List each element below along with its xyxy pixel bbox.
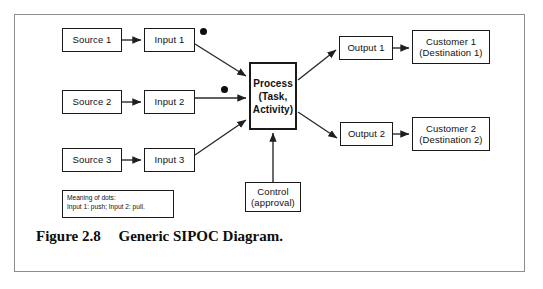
node-control-line-1: Control: [257, 186, 288, 198]
node-input-2-label: Input 2: [155, 96, 185, 108]
arrow-process-to-output2: [298, 112, 337, 138]
node-output-2-label: Output 2: [348, 128, 385, 140]
node-process-line-3: Activity): [253, 103, 293, 116]
legend-line-2: Input 1: push; Input 2: pull.: [67, 203, 173, 212]
node-source-2-label: Source 2: [73, 96, 112, 108]
node-source-3-label: Source 3: [73, 154, 112, 166]
node-input-1-label: Input 1: [155, 34, 185, 46]
node-source-3[interactable]: Source 3: [62, 148, 122, 172]
node-customer-2[interactable]: Customer 2 (Destination 2): [412, 117, 490, 151]
node-input-1[interactable]: Input 1: [144, 28, 195, 52]
node-customer-1-line-1: Customer 1: [426, 36, 476, 48]
node-customer-2-line-2: (Destination 2): [419, 134, 482, 146]
pull-dot-icon: [221, 86, 228, 93]
node-output-1-label: Output 1: [347, 42, 384, 54]
figure-caption-number: Figure 2.8: [36, 228, 101, 244]
node-input-2[interactable]: Input 2: [144, 90, 195, 114]
node-customer-1[interactable]: Customer 1 (Destination 1): [412, 30, 490, 64]
arrow-input1-to-process: [195, 44, 246, 76]
legend-line-1: Meaning of dots:: [67, 194, 173, 203]
node-source-1[interactable]: Source 1: [62, 28, 122, 52]
figure-caption-title: Generic SIPOC Diagram.: [118, 228, 283, 244]
node-process[interactable]: Process (Task, Activity): [249, 62, 297, 130]
push-dot-icon: [200, 28, 207, 35]
node-process-line-2: (Task,: [259, 90, 288, 103]
node-customer-2-line-1: Customer 2: [426, 123, 476, 135]
node-source-1-label: Source 1: [73, 34, 112, 46]
node-source-2[interactable]: Source 2: [62, 90, 122, 114]
legend-box: Meaning of dots: Input 1: push; Input 2:…: [62, 190, 174, 218]
node-input-3[interactable]: Input 3: [144, 148, 195, 172]
arrow-input3-to-process: [195, 120, 246, 155]
figure-page: Source 1 Source 2 Source 3 Input 1 Input…: [0, 0, 543, 289]
arrow-process-to-output1: [298, 50, 336, 80]
node-input-3-label: Input 3: [155, 154, 185, 166]
node-output-1[interactable]: Output 1: [339, 36, 393, 60]
figure-caption: Figure 2.8 Generic SIPOC Diagram.: [36, 228, 283, 245]
node-output-2[interactable]: Output 2: [340, 122, 393, 146]
node-process-line-1: Process: [253, 77, 293, 90]
node-customer-1-line-2: (Destination 1): [419, 47, 482, 59]
node-control-line-2: (approval): [251, 197, 295, 209]
node-control[interactable]: Control (approval): [245, 182, 301, 212]
